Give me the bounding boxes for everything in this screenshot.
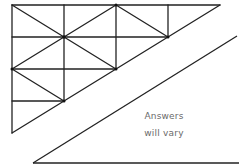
diagonal-1 [12, 5, 64, 37]
node [115, 4, 118, 7]
answer-text-line-2: will vary [128, 126, 200, 141]
node [115, 68, 118, 71]
triangle-diagram [0, 0, 239, 166]
diagonal-2 [64, 5, 116, 37]
node [62, 35, 66, 39]
diagonal-4 [12, 37, 64, 69]
node [11, 68, 14, 71]
node [63, 100, 66, 103]
node [167, 36, 170, 39]
diagonal-6 [12, 69, 64, 101]
diagonal-5 [64, 37, 116, 69]
answer-text-line-1: Answers [128, 109, 200, 124]
diagonal-3 [116, 5, 168, 37]
